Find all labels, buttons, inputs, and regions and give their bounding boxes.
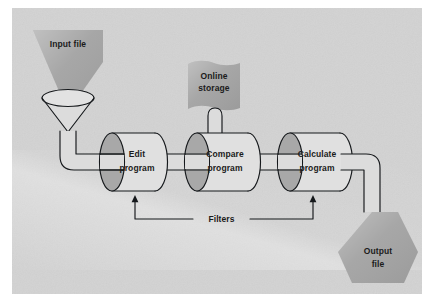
- online-storage-label-2: storage: [198, 83, 230, 93]
- edit-program-label-2: program: [119, 163, 155, 173]
- program-edit[interactable]: Edit program: [100, 133, 168, 191]
- compare-program-label-1: Compare: [206, 149, 244, 159]
- output-file-label-1: Output: [364, 246, 393, 256]
- calculate-program-label-2: program: [299, 163, 335, 173]
- node-online-storage[interactable]: Online storage: [188, 61, 240, 110]
- pipeline-diagram: Input file: [0, 0, 434, 306]
- input-file-label: Input file: [50, 39, 87, 49]
- calculate-program-label-1: Calculate: [298, 149, 337, 159]
- filters-label: Filters: [208, 214, 234, 224]
- output-file-label-2: file: [372, 259, 385, 269]
- edit-program-label-1: Edit: [129, 149, 146, 159]
- online-storage-label-1: Online: [200, 71, 227, 81]
- compare-program-label-2: program: [207, 163, 243, 173]
- figure-container: Input file: [0, 0, 434, 306]
- program-compare[interactable]: Compare program: [185, 133, 261, 191]
